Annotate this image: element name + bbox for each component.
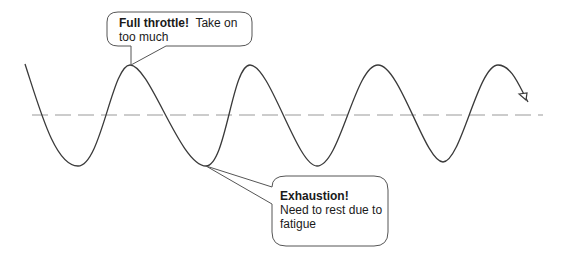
callout-exhaustion-title: Exhaustion! [280,189,349,203]
callout-exhaustion-body: Need to rest due to fatigue [280,203,382,231]
arrowhead-icon [519,93,527,100]
callout-full-throttle-title: Full throttle! [119,16,189,30]
callout-exhaustion-text: Exhaustion! Need to rest due to fatigue [280,189,386,231]
callout-full-throttle-text: Full throttle! Take on too much [119,16,251,44]
